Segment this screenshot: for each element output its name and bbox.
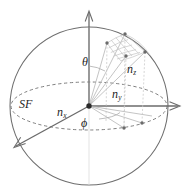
x-axis [14, 106, 89, 148]
label-n-x: nx [57, 106, 67, 119]
label-n-z: nz [127, 63, 136, 76]
phi-arc [99, 113, 120, 120]
equator-point-right-dot [140, 121, 143, 124]
label-phi: ϕ [81, 117, 87, 129]
mesh-corner-lower-right-dot [143, 50, 146, 53]
label-n-x-subscript: x [63, 111, 66, 120]
label-theta: θ [82, 56, 88, 68]
label-n-y: ny [112, 88, 122, 101]
label-n-y-subscript: y [118, 93, 121, 102]
spherical-coordinate-diagram: SF nx ny nz θ ϕ [0, 0, 185, 194]
label-sf: SF [19, 98, 32, 110]
label-n-z-subscript: z [133, 68, 136, 77]
mesh-corner-upper-right-dot [123, 32, 126, 35]
origin-point [86, 103, 91, 108]
equator-point-left-dot [122, 126, 125, 129]
mesh-corner-lower-left-dot [124, 54, 127, 57]
mesh-corner-upper-left-dot [105, 41, 108, 44]
theta-arc [89, 66, 105, 71]
marker-dots [105, 32, 146, 129]
